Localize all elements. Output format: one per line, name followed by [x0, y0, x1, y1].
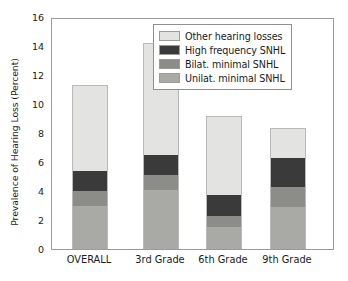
- legend-item-label: Unilat. minimal SNHL: [185, 73, 285, 84]
- bar-6th-grade[interactable]: [206, 116, 242, 249]
- chart-legend: Other hearing lossesHigh frequency SNHLB…: [153, 24, 292, 90]
- x-axis-tick-label: 9th Grade: [247, 254, 327, 265]
- bar-overall[interactable]: [72, 85, 108, 249]
- stacked-bar-chart: Prevalence of Hearing Loss (Percent) 024…: [0, 0, 348, 281]
- bar-segment[interactable]: [72, 206, 108, 250]
- x-axis-tick-label: OVERALL: [49, 254, 129, 265]
- legend-item[interactable]: Bilat. minimal SNHL: [159, 57, 285, 71]
- y-axis-tick-label: 2: [0, 215, 51, 227]
- y-axis-tick-label: 14: [0, 41, 51, 53]
- bar-segment[interactable]: [143, 155, 179, 175]
- y-axis-tick-label: 8: [0, 128, 51, 140]
- legend-item-label: Bilat. minimal SNHL: [185, 59, 278, 70]
- legend-item-label: Other hearing losses: [185, 31, 282, 42]
- bar-segment[interactable]: [270, 187, 306, 207]
- bar-segment[interactable]: [206, 216, 242, 228]
- bar-segment[interactable]: [143, 175, 179, 190]
- bar-segment[interactable]: [72, 171, 108, 191]
- bar-segment[interactable]: [72, 191, 108, 206]
- bar-9th-grade[interactable]: [270, 128, 306, 249]
- legend-item[interactable]: High frequency SNHL: [159, 43, 285, 57]
- y-axis-tick-label: 6: [0, 157, 51, 169]
- y-axis-tick-label: 0: [0, 244, 51, 256]
- bar-segment[interactable]: [143, 190, 179, 249]
- y-axis-tick-label: 10: [0, 99, 51, 111]
- legend-swatch-icon: [159, 45, 180, 55]
- bar-segment[interactable]: [206, 116, 242, 195]
- legend-swatch-icon: [159, 31, 180, 41]
- legend-item[interactable]: Unilat. minimal SNHL: [159, 71, 285, 85]
- legend-swatch-icon: [159, 73, 180, 83]
- legend-swatch-icon: [159, 59, 180, 69]
- bar-segment[interactable]: [270, 207, 306, 249]
- y-axis-tick-label: 16: [0, 12, 51, 24]
- legend-item[interactable]: Other hearing losses: [159, 29, 285, 43]
- bar-segment[interactable]: [270, 128, 306, 158]
- y-axis-tick-label: 4: [0, 186, 51, 198]
- legend-item-label: High frequency SNHL: [185, 45, 285, 56]
- y-axis-tick-label: 12: [0, 70, 51, 82]
- bar-segment[interactable]: [206, 195, 242, 216]
- bar-segment[interactable]: [72, 85, 108, 171]
- bar-segment[interactable]: [206, 227, 242, 249]
- bar-segment[interactable]: [270, 158, 306, 187]
